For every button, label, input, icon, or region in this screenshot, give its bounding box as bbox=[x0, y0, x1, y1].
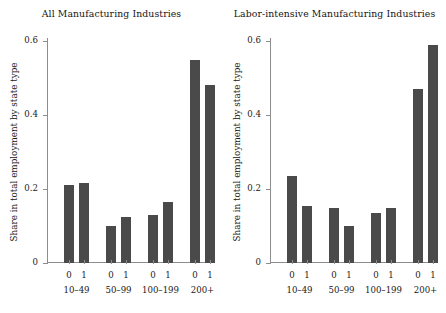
y-tick-label: 0.4 bbox=[24, 109, 38, 119]
bar bbox=[79, 183, 89, 263]
bar bbox=[344, 226, 354, 263]
bar-series bbox=[47, 41, 213, 263]
figure: All Manufacturing Industries Share in to… bbox=[0, 0, 446, 313]
bar bbox=[302, 206, 312, 263]
y-tick-label: 0.4 bbox=[247, 109, 261, 119]
x-group-label: 100–199 bbox=[365, 285, 402, 295]
bar bbox=[386, 208, 396, 263]
x-group-label: 10–49 bbox=[286, 285, 312, 295]
panel-title: Labor-intensive Manufacturing Industries bbox=[223, 8, 446, 19]
chart-panel-all-manufacturing: All Manufacturing Industries Share in to… bbox=[0, 0, 223, 313]
x-tick-sublabel: 1 bbox=[346, 270, 351, 280]
bar bbox=[121, 217, 131, 263]
x-tick-labels: 0101010110–4950–99100–199200+ bbox=[47, 263, 213, 303]
chart-panel-labor-intensive: Labor-intensive Manufacturing Industries… bbox=[223, 0, 446, 313]
x-group-label: 100–199 bbox=[142, 285, 179, 295]
bar bbox=[413, 89, 423, 263]
y-axis-label-text: Share in total employment by state type bbox=[8, 62, 18, 241]
bar bbox=[148, 215, 158, 263]
bar bbox=[371, 213, 381, 263]
bar bbox=[64, 185, 74, 263]
x-tick-sublabel: 1 bbox=[123, 270, 128, 280]
plot-area: 00.20.40.6 0101010110–4950–99100–199200+ bbox=[270, 41, 436, 263]
x-group-label: 200+ bbox=[191, 285, 215, 295]
bar bbox=[190, 60, 200, 264]
x-tick-sublabel: 1 bbox=[81, 270, 86, 280]
x-tick-sublabel: 0 bbox=[108, 270, 113, 280]
x-tick-sublabel: 1 bbox=[304, 270, 309, 280]
bar bbox=[428, 45, 438, 263]
y-axis-label-text: Share in total employment by state type bbox=[231, 62, 241, 241]
bar bbox=[287, 176, 297, 263]
bar bbox=[163, 202, 173, 263]
x-group-label: 50–99 bbox=[328, 285, 354, 295]
panel-title: All Manufacturing Industries bbox=[0, 8, 223, 19]
x-tick-sublabel: 1 bbox=[430, 270, 435, 280]
x-tick-sublabel: 1 bbox=[388, 270, 393, 280]
bar bbox=[329, 208, 339, 264]
x-tick-sublabel: 1 bbox=[207, 270, 212, 280]
x-group-label: 50–99 bbox=[105, 285, 131, 295]
y-tick-label: 0.2 bbox=[24, 183, 38, 193]
x-tick-sublabel: 0 bbox=[415, 270, 420, 280]
y-tick-label: 0.6 bbox=[24, 35, 38, 45]
y-axis-label: Share in total employment by state type bbox=[6, 41, 20, 263]
x-tick-sublabel: 0 bbox=[289, 270, 294, 280]
y-tick-label: 0.2 bbox=[247, 183, 261, 193]
x-group-label: 10–49 bbox=[63, 285, 89, 295]
x-tick-sublabel: 0 bbox=[192, 270, 197, 280]
y-tick-label: 0.6 bbox=[247, 35, 261, 45]
y-tick-label: 0 bbox=[33, 257, 38, 267]
x-tick-sublabel: 0 bbox=[373, 270, 378, 280]
x-tick-sublabel: 1 bbox=[165, 270, 170, 280]
x-tick-sublabel: 0 bbox=[150, 270, 155, 280]
x-tick-sublabel: 0 bbox=[66, 270, 71, 280]
y-axis-label: Share in total employment by state type bbox=[229, 41, 243, 263]
x-tick-sublabel: 0 bbox=[331, 270, 336, 280]
x-tick-labels: 0101010110–4950–99100–199200+ bbox=[270, 263, 436, 303]
plot-area: 00.20.40.6 0101010110–4950–99100–199200+ bbox=[47, 41, 213, 263]
x-group-label: 200+ bbox=[414, 285, 438, 295]
bar bbox=[205, 85, 215, 263]
bar bbox=[106, 226, 116, 263]
bar-series bbox=[270, 41, 436, 263]
y-tick-label: 0 bbox=[256, 257, 261, 267]
